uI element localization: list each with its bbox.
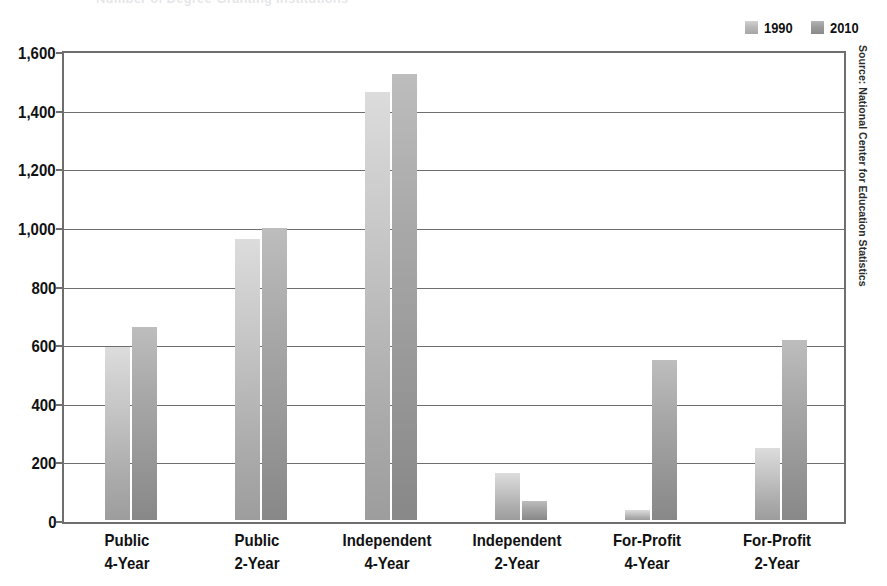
source-note-text: Source: National Center for Education St… xyxy=(857,45,869,287)
x-axis-category-label: Public4-Year xyxy=(62,530,192,576)
x-axis-label-line1: Public xyxy=(70,530,184,553)
x-axis: Public4-YearPublic2-YearIndependent4-Yea… xyxy=(62,530,846,586)
bar-1990-independent-2-year xyxy=(495,473,520,520)
x-axis-category-label: For-Profit4-Year xyxy=(582,530,712,576)
source-note: Source: National Center for Education St… xyxy=(855,45,873,335)
bar-1990-public-4-year xyxy=(105,347,130,520)
x-axis-label-line1: Public xyxy=(200,530,314,553)
bar-2010-public-4-year xyxy=(132,327,157,520)
x-axis-label-line2: 2-Year xyxy=(720,553,834,576)
x-axis-label-line1: Independent xyxy=(460,530,574,553)
bar-1990-for-profit-2-year xyxy=(755,448,780,520)
legend-swatch-1990-icon xyxy=(745,21,758,34)
y-axis-tick-label: 1,200 xyxy=(19,162,56,179)
x-axis-category-label: Independent2-Year xyxy=(452,530,582,576)
legend-item-1990: 1990 xyxy=(745,20,797,35)
bar-2010-independent-4-year xyxy=(392,74,417,520)
y-axis-tick-label: 800 xyxy=(31,279,56,296)
chart-legend: 1990 2010 xyxy=(745,18,863,36)
x-axis-label-line1: For-Profit xyxy=(590,530,704,553)
x-axis-label-line2: 4-Year xyxy=(330,553,444,576)
x-axis-category-label: Independent4-Year xyxy=(322,530,452,576)
y-axis-tick-label: 200 xyxy=(31,455,56,472)
x-axis-label-line2: 4-Year xyxy=(590,553,704,576)
x-axis-label-line2: 2-Year xyxy=(460,553,574,576)
legend-label-1990: 1990 xyxy=(764,20,793,35)
legend-label-2010: 2010 xyxy=(830,20,859,35)
plot-area xyxy=(62,51,846,524)
x-axis-label-line2: 2-Year xyxy=(200,553,314,576)
y-axis-tick-label: 1,600 xyxy=(19,45,56,62)
bar-series-container xyxy=(64,53,844,522)
cut-off-title-strip: Number of Degree-Granting Institutions xyxy=(0,0,887,9)
y-axis-tick-label: 1,000 xyxy=(19,220,56,237)
y-axis-tick-label: 600 xyxy=(31,338,56,355)
bar-2010-independent-2-year xyxy=(522,501,547,520)
y-axis-tick-label: 1,400 xyxy=(19,103,56,120)
bar-1990-for-profit-4-year xyxy=(625,510,650,520)
page-title-ghost: Number of Degree-Granting Institutions xyxy=(96,0,348,6)
bar-1990-public-2-year xyxy=(235,239,260,520)
y-axis: 1,6001,4001,2001,0008006004002000 xyxy=(0,51,56,524)
x-axis-label-line1: Independent xyxy=(330,530,444,553)
x-axis-category-label: For-Profit2-Year xyxy=(712,530,842,576)
bar-2010-for-profit-4-year xyxy=(652,360,677,520)
legend-swatch-2010-icon xyxy=(811,21,824,34)
bar-1990-independent-4-year xyxy=(365,92,390,520)
x-axis-label-line2: 4-Year xyxy=(70,553,184,576)
y-axis-tick-label: 400 xyxy=(31,396,56,413)
bar-2010-for-profit-2-year xyxy=(782,340,807,520)
x-axis-label-line1: For-Profit xyxy=(720,530,834,553)
legend-item-2010: 2010 xyxy=(811,20,863,35)
x-axis-category-label: Public2-Year xyxy=(192,530,322,576)
y-axis-tick-label: 0 xyxy=(48,514,56,531)
bar-2010-public-2-year xyxy=(262,228,287,520)
